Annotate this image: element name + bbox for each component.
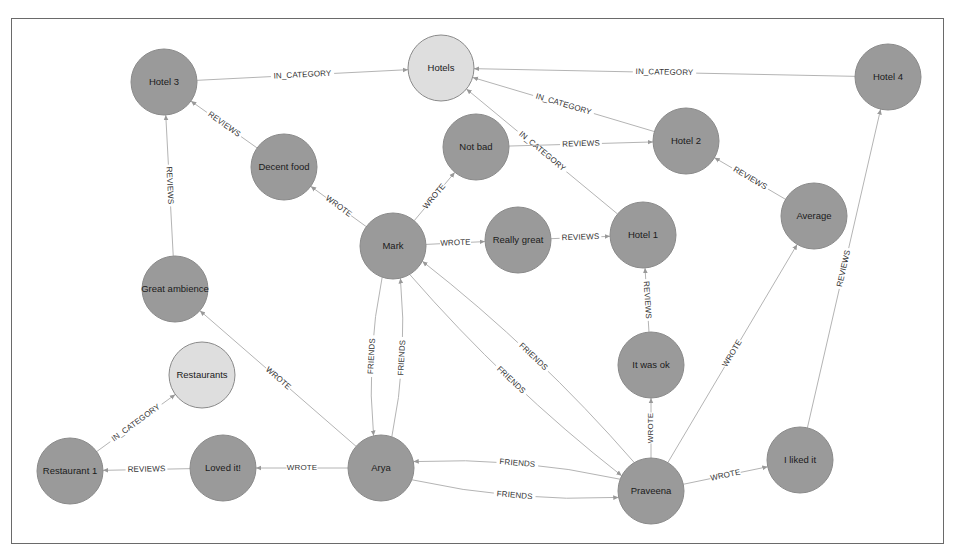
edge-label-text: REVIEWS bbox=[835, 249, 852, 288]
edge-label-text: WROTE bbox=[287, 463, 317, 472]
edge-label-text: WROTE bbox=[324, 194, 354, 219]
node-lovedit[interactable]: Loved it! bbox=[190, 435, 256, 501]
nodes-layer: Hotel 3HotelsHotel 4Hotel 2Not badDecent… bbox=[37, 35, 921, 524]
node-decentfood[interactable]: Decent food bbox=[251, 134, 317, 200]
edge-label: WROTE bbox=[440, 237, 471, 248]
node-label: Mark bbox=[382, 240, 403, 251]
edge-label: REVIEWS bbox=[126, 464, 168, 475]
edge-label: WROTE bbox=[287, 463, 318, 473]
node-label: I liked it bbox=[784, 454, 817, 465]
node-label: Hotel 2 bbox=[671, 135, 701, 146]
node-label: Not bad bbox=[459, 141, 492, 152]
edge-label-text: IN_CATEGORY bbox=[535, 92, 593, 117]
edge-label: FRIENDS bbox=[515, 339, 552, 375]
node-hotel2[interactable]: Hotel 2 bbox=[653, 108, 719, 174]
node-label: Great ambience bbox=[141, 283, 209, 294]
node-label: Arya bbox=[371, 462, 391, 473]
node-label: Praveena bbox=[631, 485, 672, 496]
edge-label: REVIEWS bbox=[834, 247, 853, 290]
edge-label: FRIENDS bbox=[493, 489, 535, 503]
graph-canvas[interactable]: IN_CATEGORYIN_CATEGORYIN_CATEGORYIN_CATE… bbox=[0, 0, 957, 559]
node-label: Loved it! bbox=[205, 462, 241, 473]
edge-label-text: REVIEWS bbox=[732, 165, 769, 192]
node-label: Really great bbox=[493, 234, 544, 245]
node-restaurant1[interactable]: Restaurant 1 bbox=[37, 438, 103, 504]
edge-label-text: WROTE bbox=[721, 338, 744, 369]
node-praveena[interactable]: Praveena bbox=[618, 458, 684, 524]
edge-label-text: IN_CATEGORY bbox=[517, 129, 568, 173]
edge-label: IN_CATEGORY bbox=[514, 127, 569, 175]
edge-label: REVIEWS bbox=[560, 138, 602, 149]
edge-label: WROTE bbox=[720, 338, 744, 370]
edge-label-text: IN_CATEGORY bbox=[636, 67, 694, 77]
node-reallygreat[interactable]: Really great bbox=[485, 207, 551, 273]
edge-label: IN_CATEGORY bbox=[107, 400, 164, 445]
node-label: Hotel 1 bbox=[628, 229, 658, 240]
node-hotel1[interactable]: Hotel 1 bbox=[610, 202, 676, 268]
edge-label-text: WROTE bbox=[264, 365, 293, 392]
edge-friends[interactable] bbox=[410, 274, 622, 475]
edge-label: IN_CATEGORY bbox=[271, 68, 335, 81]
edge-label: WROTE bbox=[709, 467, 741, 483]
edge-label-text: WROTE bbox=[646, 413, 655, 443]
edge-label-text: WROTE bbox=[421, 182, 447, 211]
node-label: Average bbox=[796, 210, 831, 221]
node-label: Decent food bbox=[258, 161, 309, 172]
edge-label: REVIEWS bbox=[163, 164, 175, 206]
node-hotel3[interactable]: Hotel 3 bbox=[131, 49, 197, 115]
node-greatambience[interactable]: Great ambience bbox=[141, 256, 209, 322]
edge-label: WROTE bbox=[323, 193, 354, 219]
edge-friends[interactable] bbox=[422, 261, 634, 462]
edge-label-text: REVIEWS bbox=[562, 232, 600, 242]
node-label: Restaurants bbox=[176, 369, 227, 380]
node-arya[interactable]: Arya bbox=[348, 435, 414, 501]
node-hotels[interactable]: Hotels bbox=[408, 35, 474, 101]
node-label: Hotel 4 bbox=[873, 71, 903, 82]
edge-label: REVIEWS bbox=[559, 232, 601, 244]
edge-label: FRIENDS bbox=[396, 337, 408, 379]
edge-label: WROTE bbox=[263, 365, 293, 393]
edge-label: REVIEWS bbox=[729, 164, 770, 194]
edge-label-text: REVIEWS bbox=[562, 139, 600, 149]
node-hotel4[interactable]: Hotel 4 bbox=[855, 44, 921, 110]
node-notbad[interactable]: Not bad bbox=[443, 114, 509, 180]
node-label: Restaurant 1 bbox=[43, 465, 97, 476]
edge-label: WROTE bbox=[646, 413, 656, 444]
node-restaurants[interactable]: Restaurants bbox=[169, 342, 235, 408]
edge-label-text: WROTE bbox=[440, 237, 471, 247]
node-label: Hotel 3 bbox=[149, 76, 179, 87]
edge-label: FRIENDS bbox=[492, 362, 529, 398]
node-mark[interactable]: Mark bbox=[360, 213, 426, 279]
edge-label: WROTE bbox=[421, 181, 449, 211]
edge-label: REVIEWS bbox=[204, 108, 244, 140]
edge-label-text: IN_CATEGORY bbox=[110, 402, 162, 444]
edge-label: FRIENDS bbox=[496, 457, 538, 471]
node-ilikedit[interactable]: I liked it bbox=[767, 427, 833, 493]
edge-label-text: FRIENDS bbox=[517, 341, 549, 372]
node-average[interactable]: Average bbox=[781, 183, 847, 249]
edge-label: FRIENDS bbox=[366, 335, 378, 377]
node-label: It was ok bbox=[632, 359, 670, 370]
edge-label-text: REVIEWS bbox=[206, 110, 242, 139]
edge-label-text: REVIEWS bbox=[128, 464, 166, 474]
edge-label: IN_CATEGORY bbox=[532, 91, 596, 119]
node-itwasok[interactable]: It was ok bbox=[618, 332, 684, 398]
node-label: Hotels bbox=[428, 62, 455, 73]
edge-label: IN_CATEGORY bbox=[633, 67, 697, 78]
edge-label: REVIEWS bbox=[641, 279, 654, 321]
edge-label-text: FRIENDS bbox=[495, 364, 527, 395]
